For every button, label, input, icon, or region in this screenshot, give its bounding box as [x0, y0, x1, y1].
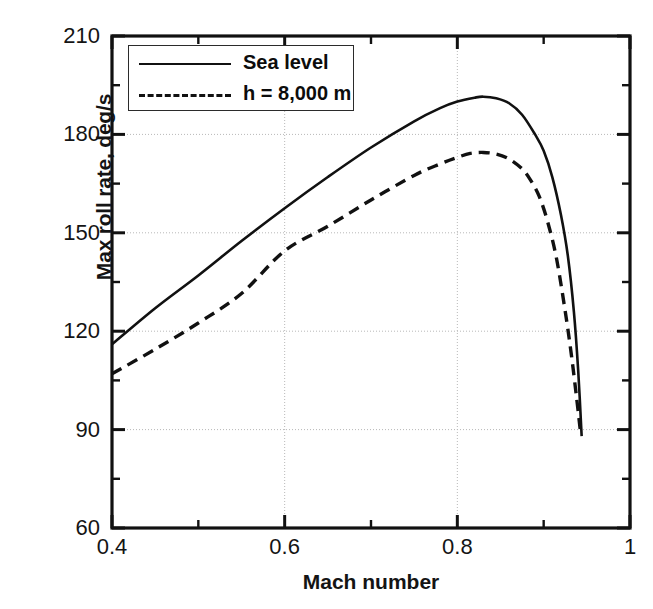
legend-label-sea-level: Sea level — [243, 51, 329, 74]
x-tick-label: 0.8 — [422, 534, 492, 560]
x-tick-label: 0.6 — [250, 534, 320, 560]
chart-legend: Sea level h = 8,000 m — [128, 45, 354, 111]
y-tick-label: 180 — [40, 121, 100, 147]
y-tick-label: 90 — [40, 417, 100, 443]
legend-item-sea-level: Sea level — [129, 46, 353, 79]
legend-item-altitude: h = 8,000 m — [129, 77, 353, 110]
x-axis-title: Mach number — [112, 570, 630, 594]
legend-dashed-line-icon — [139, 88, 231, 100]
data-series-curves — [112, 97, 582, 437]
y-tick-label: 120 — [40, 318, 100, 344]
chart-figure: 6090120150180210 0.40.60.81 Max roll rat… — [0, 0, 653, 609]
legend-label-altitude: h = 8,000 m — [243, 82, 351, 105]
y-tick-label: 210 — [40, 23, 100, 49]
y-tick-label: 150 — [40, 220, 100, 246]
legend-solid-line-icon — [139, 57, 231, 69]
x-tick-label: 1 — [595, 534, 653, 560]
y-axis-title: Max roll rate, deg/s — [92, 77, 116, 297]
series-line-1 — [112, 97, 582, 437]
series-line-2 — [112, 152, 581, 434]
x-tick-label: 0.4 — [77, 534, 147, 560]
y-axis-tick-labels: 6090120150180210 — [34, 0, 100, 609]
